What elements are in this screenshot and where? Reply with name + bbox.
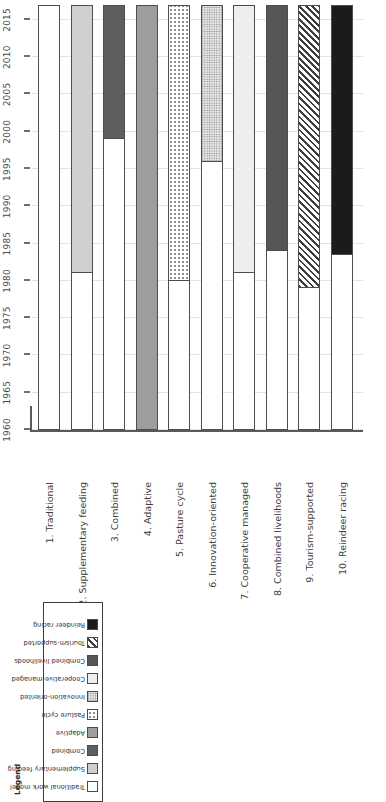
category-label: 5. Pasture cycle	[174, 482, 185, 705]
bar-segment[interactable]	[103, 5, 125, 139]
legend-item-label: Combined	[23, 747, 85, 754]
legend-item-label: Supplementary feeding	[23, 765, 85, 772]
axis-tick-label: 1995	[2, 157, 12, 181]
axis-tick-label: 2000	[2, 120, 12, 144]
axis-tick	[24, 167, 30, 169]
bar-segment[interactable]	[331, 5, 353, 255]
legend: Legend Traditional work modelSupplementa…	[8, 637, 138, 697]
bar-segment[interactable]	[136, 5, 158, 430]
legend-item-label: Cooperative-managed	[23, 675, 85, 682]
legend-item-label: Pasture cycle	[23, 711, 85, 718]
bar-segment[interactable]	[266, 5, 288, 251]
axis-tick-label: 2005	[2, 83, 12, 107]
legend-item[interactable]: Adaptive	[23, 725, 98, 742]
legend-swatch	[87, 637, 98, 648]
legend-item-label: Adaptive	[23, 729, 85, 736]
bar-segment[interactable]	[38, 5, 60, 430]
axis-tick-label: 2010	[2, 45, 12, 69]
legend-item-label: Traditional work model	[23, 783, 85, 790]
legend-box: Legend Traditional work modelSupplementa…	[43, 602, 103, 802]
legend-swatch	[87, 709, 98, 720]
legend-swatch	[87, 763, 98, 774]
axis-tick-label: 1985	[2, 232, 12, 256]
bar-segment[interactable]	[298, 5, 320, 288]
axis-tick	[24, 18, 30, 20]
legend-item[interactable]: Cooperative-managed	[23, 671, 98, 688]
time-axis-line	[30, 430, 363, 432]
axis-tick-label: 1965	[2, 381, 12, 405]
legend-item[interactable]: Combined livelihoods	[23, 653, 98, 670]
legend-item[interactable]: Combined	[23, 743, 98, 760]
axis-tick	[24, 130, 30, 132]
axis-tick	[24, 428, 30, 430]
legend-item[interactable]: Traditional work model	[23, 779, 98, 796]
bar-segment[interactable]	[201, 5, 223, 162]
legend-item[interactable]: Tourism-supported	[23, 635, 98, 652]
bar-segment[interactable]	[233, 5, 255, 273]
legend-swatch	[87, 673, 98, 684]
axis-tick-label: 2015	[2, 8, 12, 32]
legend-swatch	[87, 655, 98, 666]
legend-item[interactable]: Reindeer racing	[23, 617, 98, 634]
axis-tick	[24, 391, 30, 393]
axis-tick-label: 1980	[2, 269, 12, 293]
category-label: 4. Adaptive	[141, 482, 152, 705]
bar-segment[interactable]	[71, 5, 93, 273]
category-label: 7. Cooperative managed	[239, 482, 250, 705]
axis-tick	[24, 92, 30, 94]
legend-item-label: Innovation-oriented	[23, 693, 85, 700]
axis-tick	[24, 204, 30, 206]
category-label: 8. Combined livelihoods	[271, 482, 282, 705]
legend-item[interactable]: Innovation-oriented	[23, 689, 98, 706]
legend-item-label: Tourism-supported	[23, 639, 85, 646]
category-label: 6. Innovation-oriented	[206, 482, 217, 705]
legend-swatch	[87, 691, 98, 702]
legend-swatch	[87, 745, 98, 756]
category-label: 10. Reindeer racing	[336, 482, 347, 705]
bar-segment[interactable]	[168, 5, 190, 281]
axis-tick-label: 1975	[2, 306, 12, 330]
legend-item-label: Combined livelihoods	[23, 657, 85, 664]
category-label: 9. Tourism-supported	[304, 482, 315, 705]
legend-swatch	[87, 619, 98, 630]
axis-tick-label: 1990	[2, 194, 12, 218]
legend-item[interactable]: Supplementary feeding	[23, 761, 98, 778]
axis-tick	[24, 353, 30, 355]
legend-item[interactable]: Pasture cycle	[23, 707, 98, 724]
legend-items: Traditional work modelSupplementary feed…	[23, 609, 98, 795]
legend-item-label: Reindeer racing	[23, 621, 85, 628]
legend-swatch	[87, 727, 98, 738]
axis-tick	[24, 316, 30, 318]
axis-tick	[24, 242, 30, 244]
axis-tick	[24, 55, 30, 57]
axis-tick-label: 1960	[2, 418, 12, 442]
legend-swatch	[87, 781, 98, 792]
axis-tick-label: 1970	[2, 344, 12, 368]
axis-tick	[24, 279, 30, 281]
